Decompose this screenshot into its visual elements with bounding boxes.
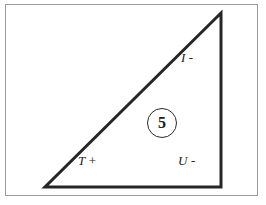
hypotenuse-label: I- [181,51,194,64]
face-number-value: 5 [158,115,166,131]
base-label-letter: T [78,153,86,168]
right-leg-label-sign: - [188,153,196,168]
face-number-circle: 5 [147,108,177,138]
base-label-sign: + [86,153,97,168]
triangle-graphic [0,0,266,205]
hypotenuse-label-sign: - [186,50,194,65]
right-leg-label: U- [178,154,196,167]
figure-canvas: I- T+ U- 5 [0,0,266,205]
right-leg-label-letter: U [178,153,188,168]
base-label: T+ [78,154,97,167]
